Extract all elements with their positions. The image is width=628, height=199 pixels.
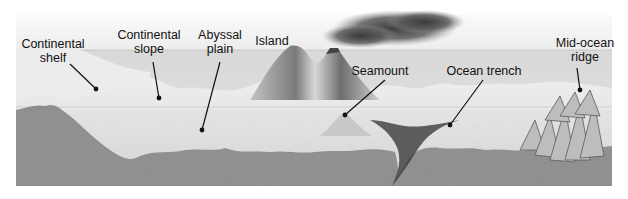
label-abyssal-plain: Abyssal plain xyxy=(198,28,242,56)
label-island: Island xyxy=(255,34,288,48)
ocean-floor-diagram: Continental shelf Continental slope Abys… xyxy=(0,0,628,199)
ocean-floor-illustration xyxy=(0,0,628,199)
sky xyxy=(16,15,612,52)
label-mid-ocean-ridge: Mid-ocean ridge xyxy=(556,36,614,64)
label-continental-shelf: Continental shelf xyxy=(21,37,84,65)
label-continental-slope: Continental slope xyxy=(117,28,180,56)
label-ocean-trench: Ocean trench xyxy=(446,64,521,78)
label-seamount: Seamount xyxy=(352,64,409,78)
